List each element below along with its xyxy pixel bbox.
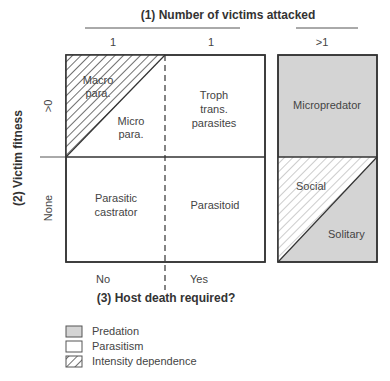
castrator-label-2: castrator xyxy=(95,206,138,218)
parasitoid-label: Parasitoid xyxy=(191,199,240,211)
legend-swatch-intensity xyxy=(66,356,82,367)
troph-label-2: trans. xyxy=(200,103,228,115)
legend-swatch-predation xyxy=(66,326,82,337)
macro-label-2: para. xyxy=(85,87,110,99)
left-tick-none: None xyxy=(42,195,54,221)
bottom-tick-no: No xyxy=(96,273,110,285)
legend-label-intensity: Intensity dependence xyxy=(92,355,197,367)
solitary-label: Solitary xyxy=(328,228,365,240)
top-tick-1a: 1 xyxy=(110,36,116,48)
troph-label-1: Troph xyxy=(200,89,228,101)
strategy-diagram: (1) Number of victims attacked 1 1 >1 (2… xyxy=(0,0,390,381)
micropredator-label: Micropredator xyxy=(293,99,361,111)
bottom-tick-yes: Yes xyxy=(190,273,208,285)
legend-swatch-parasitism xyxy=(66,341,82,352)
micro-label-1: Micro xyxy=(118,115,145,127)
legend-label-parasitism: Parasitism xyxy=(92,340,143,352)
left-tick-positive: >0 xyxy=(42,100,54,113)
troph-label-3: parasites xyxy=(192,117,237,129)
top-tick-1b: 1 xyxy=(208,36,214,48)
castrator-label-1: Parasitic xyxy=(95,192,138,204)
top-tick-gt1: >1 xyxy=(316,36,329,48)
left-axis-title: (2) Victim fitness xyxy=(11,110,25,206)
top-axis-title: (1) Number of victims attacked xyxy=(141,8,316,22)
macro-label-1: Macro xyxy=(83,74,114,86)
legend-label-predation: Predation xyxy=(92,325,139,337)
micro-label-2: para. xyxy=(118,128,143,140)
bottom-axis-title: (3) Host death required? xyxy=(97,291,236,305)
social-label: Social xyxy=(296,180,326,192)
